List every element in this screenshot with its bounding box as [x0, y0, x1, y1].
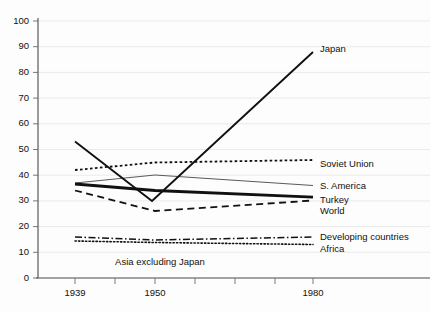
annotation-asia-excluding-japan: Asia excluding Japan [115, 256, 205, 267]
x-tick-label: 1950 [144, 287, 165, 298]
y-tick-label: 30 [18, 194, 29, 205]
y-tick-label: 40 [18, 169, 29, 180]
gridlines [38, 21, 430, 252]
y-tickmarks [33, 21, 38, 278]
y-tick-label: 100 [13, 15, 29, 26]
series-line-world [75, 184, 313, 197]
series-line-japan [75, 52, 313, 201]
series-label-world: World [320, 205, 345, 216]
series-line-s-america [75, 175, 313, 186]
series-label-s-america: S. America [320, 180, 367, 191]
y-tick-label: 10 [18, 246, 29, 257]
y-tick-label: 0 [24, 272, 29, 283]
series-label-africa: Africa [320, 243, 345, 254]
y-tick-label: 70 [18, 92, 29, 103]
series-label-turkey: Turkey [320, 194, 349, 205]
y-tick-label: 90 [18, 40, 29, 51]
line-chart: 100 90 80 70 60 50 40 30 20 10 0 1939 19… [0, 0, 430, 312]
y-tick-label: 50 [18, 143, 29, 154]
series-label-soviet-union: Soviet Union [320, 158, 374, 169]
y-axis-labels: 100 90 80 70 60 50 40 30 20 10 0 [13, 15, 29, 283]
series-label-japan: Japan [320, 43, 346, 54]
y-tick-label: 60 [18, 117, 29, 128]
chart-canvas: 100 90 80 70 60 50 40 30 20 10 0 1939 19… [0, 0, 430, 312]
y-tick-label: 20 [18, 220, 29, 231]
x-tick-label: 1980 [302, 287, 323, 298]
series-label-developing-countries: Developing countries [320, 231, 409, 242]
x-tick-label: 1939 [64, 287, 85, 298]
x-tickmarks [75, 278, 313, 284]
series-line-developing-countries [75, 237, 313, 240]
x-axis-labels: 1939 1950 1980 [64, 287, 323, 298]
series-line-africa [75, 241, 313, 245]
y-tick-label: 80 [18, 66, 29, 77]
